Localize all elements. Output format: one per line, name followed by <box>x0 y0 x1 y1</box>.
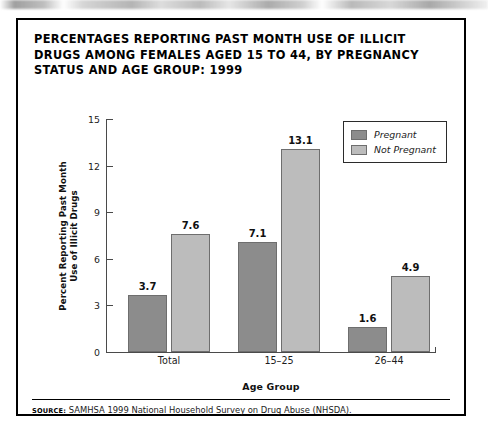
y-axis-tick-label: 15 <box>88 114 100 125</box>
bar-value-label: 4.9 <box>402 262 420 273</box>
y-axis-tick <box>107 166 113 167</box>
y-axis-label-line1: Percent Reporting Past Month <box>58 119 69 353</box>
bar-not-pregnant[interactable]: 4.9 <box>391 276 430 352</box>
y-axis-tick-label: 9 <box>94 207 100 218</box>
y-axis-tick <box>107 305 113 306</box>
legend-label-not-pregnant: Not Pregnant <box>374 144 436 155</box>
y-axis-line <box>106 119 107 353</box>
bar-pregnant[interactable]: 1.6 <box>348 327 387 352</box>
x-axis-category-label: 26–44 <box>329 355 449 366</box>
bar-pregnant[interactable]: 7.1 <box>238 242 277 352</box>
legend-label-pregnant: Pregnant <box>374 129 417 140</box>
y-axis-label-line2: Use of Illicit Drugs <box>69 119 80 353</box>
source-kicker: Source: <box>32 407 66 415</box>
bar-value-label: 1.6 <box>359 313 377 324</box>
y-axis-tick-label: 3 <box>94 300 100 311</box>
page-title: PERCENTAGES REPORTING PAST MONTH USE OF … <box>34 32 446 79</box>
bar-value-label: 7.1 <box>249 228 267 239</box>
x-axis-label: Age Group <box>106 381 436 392</box>
y-axis-tick <box>107 259 113 260</box>
bar-pregnant[interactable]: 3.7 <box>128 295 167 352</box>
legend: Pregnant Not Pregnant <box>343 121 447 163</box>
source-divider <box>32 399 450 400</box>
bar-not-pregnant[interactable]: 13.1 <box>281 149 320 352</box>
bar-value-label: 7.6 <box>182 220 200 231</box>
x-axis-line <box>106 352 436 353</box>
source-text: SAMHSA 1999 National Household Survey on… <box>69 405 352 415</box>
figure-panel: PERCENTAGES REPORTING PAST MONTH USE OF … <box>16 18 466 416</box>
x-axis-category-label: Total <box>109 355 229 366</box>
legend-item-pregnant[interactable]: Pregnant <box>351 127 439 142</box>
legend-swatch-not-pregnant <box>351 145 367 155</box>
y-axis-tick <box>107 119 113 120</box>
y-axis-tick <box>107 212 113 213</box>
y-axis-tick-label: 12 <box>88 160 100 171</box>
y-axis-tick-label: 0 <box>94 347 100 358</box>
bar-value-label: 13.1 <box>288 135 313 146</box>
y-axis-tick-label: 6 <box>94 253 100 264</box>
legend-item-not-pregnant[interactable]: Not Pregnant <box>351 142 439 157</box>
x-axis-category-label: 15–25 <box>219 355 339 366</box>
y-axis-label: Percent Reporting Past Month Use of Illi… <box>58 119 80 353</box>
y-axis-tick <box>107 352 113 353</box>
bar-not-pregnant[interactable]: 7.6 <box>171 234 210 352</box>
source-note: Source: SAMHSA 1999 National Household S… <box>32 405 452 415</box>
x-axis-right-cap <box>435 347 436 353</box>
legend-swatch-pregnant <box>351 130 367 140</box>
bar-value-label: 3.7 <box>139 281 157 292</box>
scan-artifact-band <box>0 0 488 9</box>
